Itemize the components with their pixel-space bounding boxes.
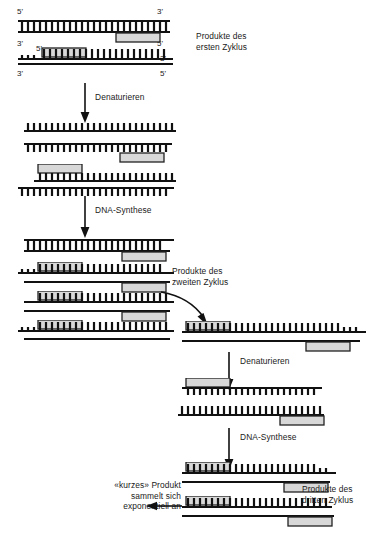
single-strand-2 [24, 141, 176, 163]
label-synthesis-2: DNA-Synthese [240, 432, 297, 443]
pcr-diagram: 5' 3' 3' 5' 5' 3' [0, 0, 374, 534]
single-strand-1 [24, 123, 180, 137]
single-strand-short-2 [178, 406, 330, 428]
duplex-short-product [182, 321, 372, 353]
prime-label-5-top-left-a: 5' [17, 8, 23, 16]
label-denature-1: Denaturieren [95, 92, 145, 103]
arrow-synthesis-1 [78, 196, 92, 238]
duplex-cycle2-4 [18, 320, 180, 344]
label-synthesis-1: DNA-Synthese [95, 205, 152, 216]
prime-label-3-top-right-a: 3' [157, 8, 163, 16]
label-products-cycle1: Produkte des ersten Zyklus [196, 31, 247, 52]
arrow-to-short-product-caption [146, 500, 182, 512]
single-strand-short-1 [182, 378, 328, 398]
arrow-denature-1 [78, 83, 92, 123]
label-denature-2: Denaturieren [240, 356, 290, 367]
label-products-cycle3: Produkte des dritten Zyklus [302, 484, 353, 505]
duplex-cycle1-a [18, 18, 174, 44]
duplex-cycle2-2 [18, 262, 180, 294]
single-strand-3 [24, 164, 180, 186]
duplex-cycle2-1 [24, 238, 180, 263]
single-strand-4 [18, 186, 178, 200]
label-products-cycle2: Produkte des zweiten Zyklus [172, 266, 228, 287]
duplex-cycle2-3 [18, 291, 180, 323]
duplex-cycle1-b [18, 46, 178, 74]
